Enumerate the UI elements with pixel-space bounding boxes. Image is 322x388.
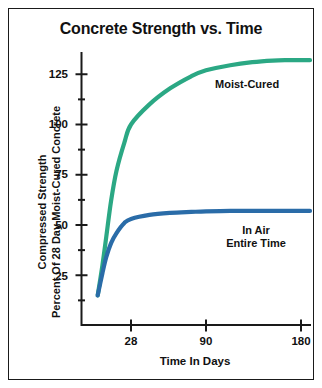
series-curve-moist-cured (98, 60, 310, 295)
series-curve-in-air (98, 211, 310, 295)
chart-figure: Concrete Strength vs. Time Compressed St… (0, 0, 322, 388)
plot-area (0, 0, 322, 388)
